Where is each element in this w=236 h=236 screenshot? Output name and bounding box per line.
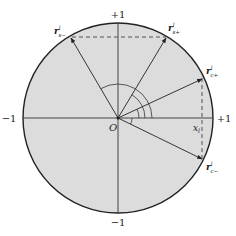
label-origin: O	[109, 122, 117, 133]
label-r-c-plus: rlc+	[206, 65, 219, 78]
label-r-s-plus: rls+	[168, 22, 180, 35]
unit-circle-diagram: +1 −1 −1 +1 O xl rls− rls+ rlc+ rlc−	[0, 0, 236, 236]
label-r-c-minus: rlc−	[206, 161, 219, 174]
label-bottom: −1	[111, 217, 126, 228]
label-r-s-minus: rls−	[54, 25, 66, 38]
label-left: −1	[2, 113, 17, 124]
label-top: +1	[111, 9, 126, 20]
origin-point	[117, 117, 120, 120]
label-right: +1	[217, 113, 232, 124]
